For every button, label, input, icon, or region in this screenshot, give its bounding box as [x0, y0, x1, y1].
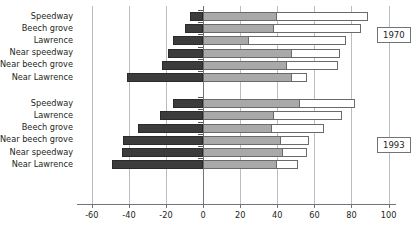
- bar-row: [77, 61, 396, 70]
- row-tick: [198, 134, 203, 135]
- axis-tick-label: -60: [85, 210, 98, 220]
- bar-segment-negative: [173, 99, 203, 108]
- row-tick: [198, 22, 203, 23]
- axis-tick-mark: [166, 205, 167, 208]
- axis-tick-mark: [277, 205, 278, 208]
- bar-segment-middle: [203, 61, 286, 70]
- row-tick: [198, 59, 203, 60]
- bar-segment-negative: [168, 49, 203, 58]
- category-label: Lawrence: [34, 111, 73, 120]
- bar-row: [77, 160, 396, 169]
- category-axis-labels: SpeedwayBeech groveLawrenceNear speedway…: [0, 6, 73, 205]
- category-label: Near beech grove: [0, 60, 73, 69]
- bar-segment-negative: [185, 24, 204, 33]
- category-label: Lawrence: [34, 36, 73, 45]
- bar-row: [77, 36, 396, 45]
- bar-segment-middle: [203, 99, 299, 108]
- row-tick: [198, 71, 203, 72]
- row-tick: [198, 109, 203, 110]
- value-axis: -60-40-20020406080100: [77, 205, 396, 225]
- bar-row: [77, 148, 396, 157]
- category-label: Near speedway: [10, 48, 73, 57]
- axis-tick-label: 100: [381, 210, 397, 220]
- bar-segment-negative: [122, 148, 204, 157]
- category-label: Speedway: [31, 12, 73, 21]
- row-tick: [198, 158, 203, 159]
- group-label-1993: 1993: [377, 137, 411, 153]
- bar-segment-negative: [123, 136, 203, 145]
- row-tick: [198, 47, 203, 48]
- bar-segment-middle: [203, 12, 277, 21]
- bar-segment-negative: [190, 12, 203, 21]
- row-tick: [198, 34, 203, 35]
- bar-segment-middle: [203, 136, 281, 145]
- bar-segment-negative: [138, 124, 203, 133]
- bar-row: [77, 136, 396, 145]
- axis-tick-mark: [351, 205, 352, 208]
- category-label: Speedway: [31, 99, 73, 108]
- bar-row: [77, 73, 396, 82]
- axis-tick-label: 0: [201, 210, 206, 220]
- axis-tick-label: 20: [235, 210, 245, 220]
- axis-tick-mark: [240, 205, 241, 208]
- bar-segment-middle: [203, 160, 277, 169]
- row-tick: [198, 97, 203, 98]
- bar-row: [77, 124, 396, 133]
- bar-segment-middle: [203, 148, 283, 157]
- axis-tick-mark: [129, 205, 130, 208]
- bar-segment-negative: [160, 111, 203, 120]
- axis-tick-mark: [203, 205, 204, 208]
- category-label: Near Lawrence: [12, 73, 73, 82]
- axis-tick-label: -40: [122, 210, 135, 220]
- chart-container: SpeedwayBeech groveLawrenceNear speedway…: [0, 0, 419, 229]
- plot-area: [77, 6, 396, 205]
- row-tick: [198, 122, 203, 123]
- bar-row: [77, 49, 396, 58]
- category-label: Near speedway: [10, 148, 73, 157]
- bar-segment-negative: [112, 160, 203, 169]
- bar-row: [77, 12, 396, 21]
- bar-segment-middle: [203, 49, 292, 58]
- bar-segment-middle: [203, 111, 273, 120]
- axis-tick-mark: [92, 205, 93, 208]
- bar-segment-middle: [203, 36, 249, 45]
- axis-tick-label: 40: [272, 210, 282, 220]
- row-tick: [198, 146, 203, 147]
- bar-segment-negative: [127, 73, 203, 82]
- bar-segment-middle: [203, 124, 272, 133]
- category-label: Near beech grove: [0, 135, 73, 144]
- bar-segment-middle: [203, 73, 292, 82]
- category-label: Beech grove: [22, 24, 73, 33]
- group-label-1970: 1970: [377, 27, 411, 43]
- bar-row: [77, 24, 396, 33]
- axis-tick-label: 60: [309, 210, 319, 220]
- bar-segment-negative: [162, 61, 203, 70]
- bar-segment-negative: [173, 36, 203, 45]
- category-label: Beech grove: [22, 123, 73, 132]
- axis-tick-label: -20: [159, 210, 172, 220]
- bar-segment-middle: [203, 24, 273, 33]
- bar-row: [77, 111, 396, 120]
- axis-tick-mark: [389, 205, 390, 208]
- row-tick: [198, 10, 203, 11]
- bar-row: [77, 99, 396, 108]
- axis-tick-mark: [314, 205, 315, 208]
- axis-tick-label: 80: [346, 210, 356, 220]
- category-label: Near Lawrence: [12, 160, 73, 169]
